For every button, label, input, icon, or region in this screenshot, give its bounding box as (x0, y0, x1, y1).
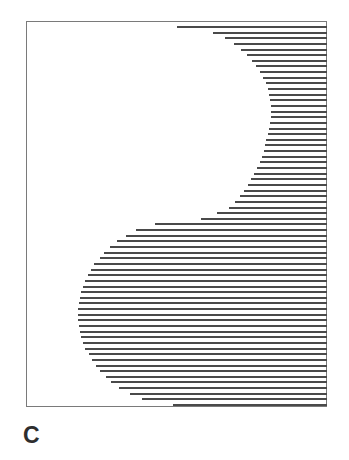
hatch-line (271, 116, 327, 118)
hatch-line (85, 348, 327, 350)
hatch-line (254, 173, 327, 175)
hatch-line (262, 156, 327, 158)
hatch-line (88, 274, 327, 276)
hatch-line (136, 229, 327, 231)
hatch-line (83, 342, 327, 344)
hatch-line (252, 60, 327, 62)
hatch-line (81, 291, 327, 293)
hatch-line (80, 331, 327, 333)
hatch-line (110, 246, 327, 248)
hatch-line (225, 37, 327, 39)
hatch-line (269, 128, 327, 130)
hatch-line (268, 88, 327, 90)
hatch-line (229, 207, 327, 209)
hatch-line (83, 286, 327, 288)
hatch-line (235, 201, 327, 203)
hatch-line (213, 32, 327, 34)
hatch-line (270, 122, 327, 124)
hatch-line (80, 297, 327, 299)
hatch-line (234, 43, 327, 45)
hatch-line (78, 314, 327, 316)
hatch-line (85, 280, 327, 282)
hatch-line (248, 184, 327, 186)
hatch-line (79, 325, 327, 327)
hatch-line (94, 263, 327, 265)
hatch-line (266, 82, 327, 84)
hatch-line (91, 269, 327, 271)
hatch-line (241, 49, 327, 51)
hatch-line (264, 150, 327, 152)
hatch-line (240, 195, 327, 197)
hatch-line (78, 308, 327, 310)
hatch-line (78, 319, 327, 321)
hatch-line (265, 144, 327, 146)
hatch-line (89, 353, 327, 355)
hatch-line (270, 99, 327, 101)
hatch-line (251, 178, 327, 180)
panel-label: C (23, 424, 40, 447)
hatch-line (263, 77, 327, 79)
hatch-line (217, 212, 327, 214)
hatch-line (271, 105, 327, 107)
hatch-line (260, 161, 327, 163)
hatch-line (256, 65, 327, 67)
hatch-line (244, 190, 327, 192)
hatch-line (117, 240, 327, 242)
hatch-line (201, 218, 327, 220)
hatch-line (173, 404, 327, 406)
hatch-line (271, 111, 327, 113)
hatch-line (155, 223, 327, 225)
hatch-line (269, 94, 327, 96)
hatch-line (100, 257, 327, 259)
hatch-line (126, 235, 327, 237)
hatch-line (260, 71, 327, 73)
hatch-line (92, 359, 327, 361)
hatch-line (81, 336, 327, 338)
hatch-line (177, 26, 327, 28)
hatch-line (130, 393, 327, 395)
hatch-line (142, 398, 327, 400)
hatch-line (111, 381, 327, 383)
hatch-line (247, 54, 327, 56)
hatch-line (266, 139, 327, 141)
hatch-line (268, 133, 327, 135)
hatch-line (96, 365, 327, 367)
hatch-line (79, 302, 327, 304)
hatch-line (106, 376, 327, 378)
hatch-line (104, 252, 327, 254)
hatch-line (257, 167, 327, 169)
hatch-line (119, 387, 327, 389)
hatch-line (100, 370, 327, 372)
